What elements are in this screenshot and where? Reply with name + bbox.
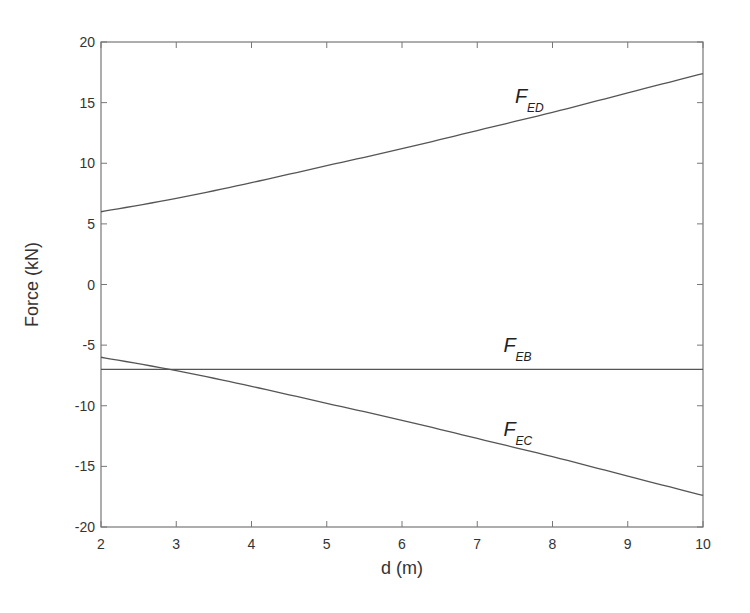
x-tick-label: 4: [248, 536, 256, 552]
curve-label-subscript: EB: [516, 350, 532, 364]
y-axis-title: Force (kN): [22, 242, 42, 327]
y-tick-label: 10: [79, 155, 95, 171]
curve-label-f-ec: FEC: [504, 418, 533, 448]
y-tick-label: 5: [87, 216, 95, 232]
x-tick-label: 3: [172, 536, 180, 552]
x-tick-label: 6: [398, 536, 406, 552]
y-tick-label: -20: [75, 519, 95, 535]
x-tick-label: 10: [695, 536, 711, 552]
curve-label-f-ed: FED: [515, 85, 544, 115]
y-tick-label: 0: [87, 277, 95, 293]
force-vs-distance-chart: 2345678910-20-15-10-505101520 FEDFEBFEC …: [0, 0, 750, 613]
x-tick-label: 2: [97, 536, 105, 552]
x-tick-label: 9: [624, 536, 632, 552]
axes: 2345678910-20-15-10-505101520: [75, 34, 711, 552]
y-tick-label: 15: [79, 95, 95, 111]
x-tick-label: 8: [549, 536, 557, 552]
curve-label-subscript: ED: [527, 101, 544, 115]
curve-label-f-eb: FEB: [504, 334, 532, 364]
series-line-f-ed: [101, 74, 703, 212]
y-tick-label: -5: [83, 337, 96, 353]
plot-frame: [101, 42, 703, 527]
curve-label-subscript: EC: [516, 434, 533, 448]
y-tick-label: 20: [79, 34, 95, 50]
series-line-f-ec: [101, 357, 703, 495]
x-tick-label: 7: [473, 536, 481, 552]
y-tick-label: -10: [75, 398, 95, 414]
series-lines: [101, 73, 703, 495]
y-tick-label: -15: [75, 458, 95, 474]
x-axis-title: d (m): [381, 558, 423, 578]
x-tick-label: 5: [323, 536, 331, 552]
curve-labels: FEDFEBFEC: [504, 85, 544, 448]
